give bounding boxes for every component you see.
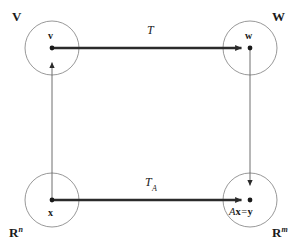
node-label-ax-equals-y: Ax=y [229,207,253,218]
node-dot-y [248,198,253,203]
space-label-rm: Rm [272,226,288,239]
space-label-rm-superscript: m [282,225,288,234]
map-label-ta: TA [145,176,157,191]
space-label-rn-superscript: n [19,225,23,234]
map-label-ta-subscript: A [152,184,157,193]
node-dot-v [50,46,55,51]
node-dot-w [248,46,253,51]
vector-symbol-x: x [235,206,240,217]
space-label-rn: Rn [9,226,23,239]
figure-canvas: V W Rn Rm v w x Ax=y T TA [0,0,307,250]
space-label-rm-text: R [272,225,282,240]
space-label-v-text: V [12,9,22,24]
node-label-w: w [245,31,252,41]
node-label-x: x [48,208,53,218]
map-label-t-text: T [147,23,154,37]
space-label-rn-text: R [9,225,19,240]
space-label-v: V [12,10,22,23]
space-label-w: W [272,10,285,23]
node-label-v: v [48,31,53,41]
node-dot-x [50,198,55,203]
map-label-ta-text: T [145,175,152,189]
space-label-w-text: W [272,9,285,24]
map-label-t: T [147,24,154,39]
vector-symbol-y: y [248,206,253,217]
equals-operator: = [241,206,248,217]
